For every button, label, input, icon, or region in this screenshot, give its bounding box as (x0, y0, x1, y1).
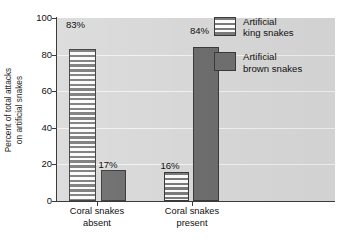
legend-item-king-snakes: Artificial king snakes (214, 16, 334, 38)
data-label-present-king: 16% (151, 161, 189, 171)
bar-chart-figure: Percent of total attacks on artificial s… (0, 0, 337, 240)
y-tick-label-80: 80 (28, 50, 52, 60)
x-category-absent-line-1: Coral snakes (54, 206, 140, 218)
y-tick-label-20: 20 (28, 159, 52, 169)
y-axis-title-line-1: Percent of total attacks (3, 68, 14, 152)
legend-brown-line-2: brown snakes (243, 63, 302, 74)
y-tick-label-60: 60 (28, 86, 52, 96)
legend-brown-line-1: Artificial (243, 51, 302, 62)
y-axis-title: Percent of total attacks on artificial s… (0, 18, 26, 202)
x-category-present-line-1: Coral snakes (149, 206, 235, 218)
bar-present-king-snakes (164, 172, 189, 201)
data-label-absent-brown: 17% (89, 160, 127, 170)
legend-swatch-king-snakes-icon (214, 17, 236, 36)
data-label-absent-king: 83% (56, 20, 95, 30)
legend-item-brown-snakes: Artificial brown snakes (214, 51, 334, 73)
legend-label-brown-snakes: Artificial brown snakes (243, 51, 302, 73)
y-axis-title-line-2: on artificial snakes (13, 68, 24, 152)
chart-legend: Artificial king snakes Artificial brown … (214, 16, 334, 87)
legend-king-line-1: Artificial (243, 16, 294, 27)
y-axis-line (56, 17, 57, 202)
x-category-label-absent: Coral snakes absent (54, 206, 140, 229)
y-axis-tick-labels: 100 80 60 40 20 0 (26, 0, 52, 240)
legend-label-king-snakes: Artificial king snakes (243, 16, 294, 38)
y-tick-label-0: 0 (28, 196, 52, 206)
y-tick-label-100: 100 (28, 13, 52, 23)
bar-absent-brown-snakes (101, 170, 126, 201)
y-tick-label-40: 40 (28, 123, 52, 133)
legend-king-line-2: king snakes (243, 27, 294, 38)
bar-absent-king-snakes (69, 49, 96, 201)
x-category-absent-line-2: absent (54, 218, 140, 230)
legend-swatch-brown-snakes-icon (214, 52, 236, 71)
x-category-label-present: Coral snakes present (149, 206, 235, 229)
x-category-present-line-2: present (149, 218, 235, 230)
